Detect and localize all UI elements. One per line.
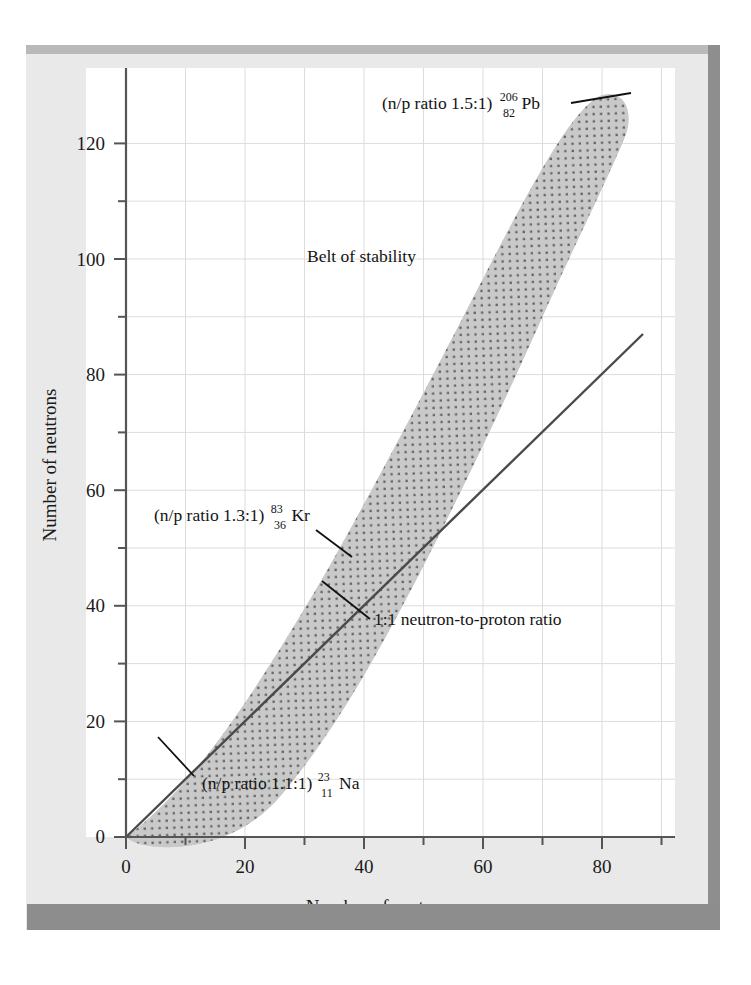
annotation-pb-206-mass-number: 206: [500, 90, 518, 104]
xtick-label-40: 40: [355, 856, 374, 877]
xtick-label-0: 0: [121, 856, 131, 877]
xtick-label-60: 60: [474, 856, 493, 877]
xtick-label-80: 80: [593, 856, 612, 877]
ytick-label-40: 40: [86, 595, 105, 616]
annotation-kr-83-atomic-number: 36: [274, 518, 286, 532]
ytick-label-80: 80: [86, 364, 105, 385]
ytick-label-60: 60: [86, 480, 105, 501]
annotation-belt-of-stability: Belt of stability: [307, 246, 416, 266]
xtick-label-20: 20: [236, 856, 255, 877]
y-axis-title: Number of neutrons: [39, 388, 60, 541]
annotation-na-23-mass-number: 23: [318, 770, 330, 784]
annotation-one-to-one-ratio-text: 1:1 neutron-to-proton ratio: [374, 609, 562, 629]
annotation-na-23-atomic-number: 11: [321, 786, 333, 800]
x-axis-tick-labels: 0 20 40 60 80: [121, 856, 611, 877]
ytick-label-100: 100: [77, 249, 106, 270]
ytick-label-0: 0: [96, 826, 106, 847]
annotation-kr-83-symbol: Kr: [291, 505, 310, 525]
figure-root: 0 20 40 60 80 100 120 0 20 40 60: [0, 0, 751, 985]
annotation-pb-206-prefix: (n/p ratio 1.5:1): [382, 93, 492, 113]
annotation-kr-83-prefix: (n/p ratio 1.3:1): [154, 505, 264, 525]
annotation-kr-83-mass-number: 83: [271, 502, 283, 516]
annotation-na-23-symbol: Na: [339, 773, 360, 793]
ytick-label-20: 20: [86, 711, 105, 732]
annotation-na-23-prefix: (n/p ratio 1.1:1): [202, 773, 312, 793]
belt-of-stability-chart: 0 20 40 60 80 100 120 0 20 40 60: [26, 45, 720, 930]
annotation-pb-206-symbol: Pb: [521, 93, 540, 113]
figure-bottom-bar: [27, 904, 720, 930]
ytick-label-120: 120: [77, 133, 106, 154]
annotation-pb-206-atomic-number: 82: [503, 106, 515, 120]
